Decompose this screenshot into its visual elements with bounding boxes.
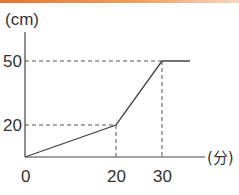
x-tick-30: 30	[153, 167, 172, 186]
line-chart: (cm) 50 20 0 20 30 (分)	[0, 0, 239, 195]
y-tick-20: 20	[3, 116, 22, 135]
y-tick-50: 50	[3, 52, 22, 71]
data-line	[25, 61, 190, 157]
origin-label: 0	[21, 167, 30, 186]
guide-lines	[25, 61, 162, 157]
y-unit-label: (cm)	[5, 10, 39, 29]
x-unit-label: (分)	[207, 149, 234, 167]
x-tick-20: 20	[107, 167, 126, 186]
